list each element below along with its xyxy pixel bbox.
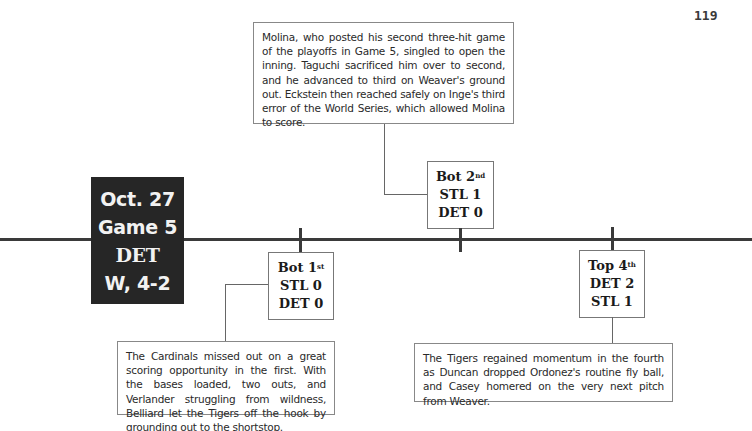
game-date: Oct. 27 — [91, 185, 184, 213]
connector-bot-2nd-v — [384, 124, 385, 194]
connector-top-4th-v — [612, 317, 613, 343]
score-box-bot-2nd: Bot 2nd STL 1 DET 0 — [427, 161, 494, 229]
note-top-4th: The Tigers regained momentum in the four… — [414, 343, 673, 402]
inning-label: Top 4th — [580, 257, 644, 275]
game-result: W, 4-2 — [91, 269, 184, 297]
timeline-tick-top-4th — [611, 227, 614, 251]
inning-half: Bot — [436, 169, 462, 184]
score-line-2: DET 0 — [269, 295, 333, 313]
score-line-2: DET 0 — [428, 204, 493, 222]
inning-half: Top — [588, 258, 614, 273]
score-line-1: STL 0 — [269, 277, 333, 295]
score-line-2: STL 1 — [580, 293, 644, 311]
score-box-bot-1st: Bot 1st STL 0 DET 0 — [268, 252, 334, 320]
game-winner: DET — [91, 241, 184, 269]
inning-label: Bot 2nd — [428, 168, 493, 186]
score-line-1: STL 1 — [428, 186, 493, 204]
inning-half: Bot — [278, 260, 304, 275]
note-bot-2nd: Molina, who posted his second three-hit … — [253, 22, 514, 124]
inning-suffix: st — [317, 262, 324, 271]
score-box-top-4th: Top 4th DET 2 STL 1 — [579, 250, 645, 318]
game-number: Game 5 — [91, 213, 184, 241]
timeline-tick-bot-2nd — [459, 228, 462, 252]
inning-suffix: nd — [475, 171, 485, 180]
game-summary-box: Oct. 27 Game 5 DET W, 4-2 — [91, 177, 184, 304]
page-number: 119 — [694, 8, 717, 23]
connector-bot-1st-h — [225, 284, 268, 285]
inning-number: 1 — [308, 260, 317, 275]
score-line-1: DET 2 — [580, 275, 644, 293]
inning-number: 2 — [466, 169, 475, 184]
inning-number: 4 — [619, 258, 628, 273]
note-bot-1st: The Cardinals missed out on a great scor… — [117, 341, 335, 415]
connector-bot-2nd-h — [384, 194, 427, 195]
inning-suffix: th — [628, 260, 636, 269]
inning-label: Bot 1st — [269, 259, 333, 277]
connector-bot-1st-v — [225, 284, 226, 341]
timeline-tick-bot-1st — [299, 228, 302, 252]
